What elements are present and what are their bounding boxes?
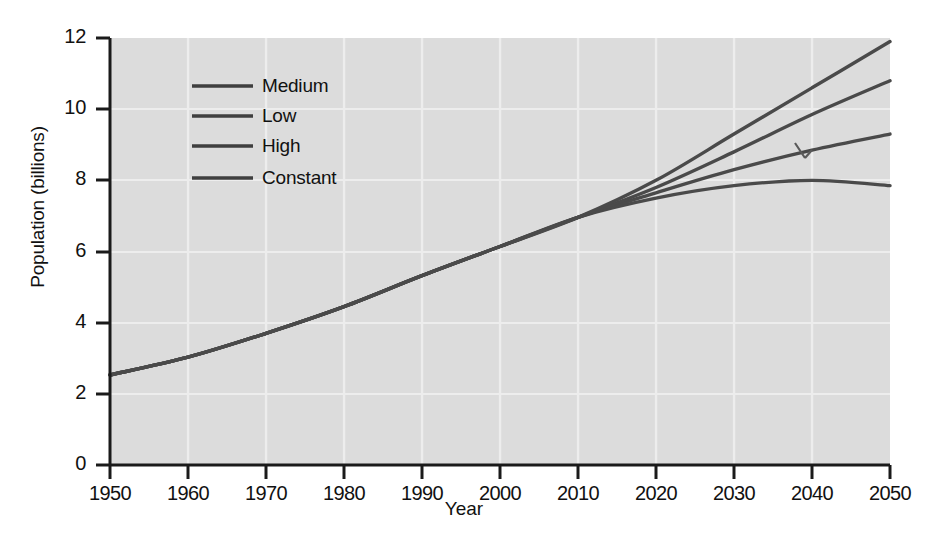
population-projection-figure: 0 2 4 6 8 10 12 1950 1960 1970 1980 1990… xyxy=(0,0,928,556)
x-axis-ticks xyxy=(110,465,890,479)
y-tick-label-0: 0 xyxy=(30,452,86,475)
y-axis-ticks xyxy=(96,38,110,465)
chart-canvas xyxy=(0,0,928,556)
legend-label-low: Low xyxy=(262,105,296,127)
legend-label-high: High xyxy=(262,135,300,157)
figure-caption xyxy=(0,543,928,556)
legend-label-constant: Constant xyxy=(262,167,336,189)
y-tick-label-2: 2 xyxy=(30,381,86,404)
x-axis-title: Year xyxy=(0,498,928,520)
y-tick-label-12: 12 xyxy=(30,25,86,48)
legend-label-medium: Medium xyxy=(262,75,328,97)
y-axis-title: Population (billions) xyxy=(27,97,49,317)
